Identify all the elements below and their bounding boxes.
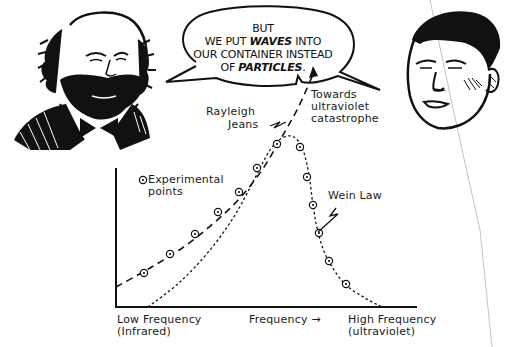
wein-pointer-icon (318, 208, 338, 232)
experimental-point (325, 257, 332, 264)
experimental-point (253, 164, 260, 171)
rayleigh-jeans-arrow-icon (309, 66, 318, 78)
radiation-chart (0, 0, 507, 347)
x-high-label-2: (ultraviolet) (348, 326, 415, 338)
rayleigh-jeans-label-2: Jeans (228, 119, 258, 131)
legend-label-2: points (148, 186, 183, 198)
x-axis-title: Frequency → (249, 314, 321, 326)
experimental-point (273, 140, 280, 147)
wein-law-label: Wein Law (328, 190, 382, 202)
experimental-points (140, 140, 349, 287)
experimental-point (296, 143, 303, 150)
experimental-point (166, 250, 173, 257)
towards-label-3: catastrophe (311, 113, 379, 125)
rayleigh-pointer-icon (270, 122, 286, 128)
legend-marker-icon (139, 176, 146, 183)
experimental-point (309, 201, 316, 208)
experimental-point (303, 173, 310, 180)
experimental-point (140, 269, 147, 276)
experimental-point (342, 280, 349, 287)
rayleigh-jeans-label-1: Rayleigh (206, 106, 255, 118)
experimental-point (235, 188, 242, 195)
x-low-label-2: (Infrared) (117, 326, 171, 338)
experimental-point (191, 230, 198, 237)
experimental-point (214, 208, 221, 215)
